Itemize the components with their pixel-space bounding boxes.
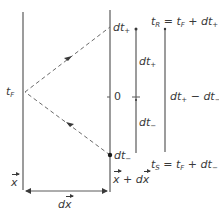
- label-dt-plus-interval: dt+: [139, 56, 156, 69]
- reception-dot: [108, 153, 112, 157]
- diagram-canvas: [0, 0, 219, 215]
- label-t-r-equation: tR = tF + dt+: [151, 16, 218, 29]
- label-x-plus-dx: x + dx: [113, 174, 149, 185]
- signal-outgoing-arrow-icon: [64, 56, 72, 61]
- interval-mid-dot: [135, 99, 137, 101]
- label-dt-minus-interval: dt−: [139, 117, 156, 130]
- interval-top-dot: [135, 28, 138, 31]
- label-x: x: [11, 177, 18, 188]
- label-dt-difference: dt+ − dt−: [170, 91, 219, 104]
- signal-returning-arrow-icon: [66, 122, 74, 127]
- label-t-s-equation: tS = tF + dt−: [151, 159, 218, 172]
- label-dx: dx: [58, 199, 72, 210]
- label-zero: 0: [114, 91, 121, 102]
- label-dt-plus-top: dt+: [113, 22, 130, 35]
- label-dt-minus-bottom: dt−: [114, 150, 131, 163]
- label-t-f: tF: [6, 86, 14, 99]
